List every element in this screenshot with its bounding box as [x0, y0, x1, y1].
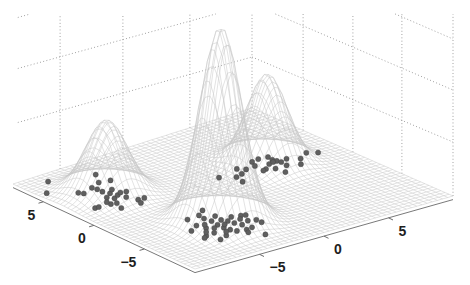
data-point [213, 214, 218, 219]
data-point [304, 150, 309, 155]
data-point [194, 223, 199, 228]
data-point [46, 179, 51, 184]
data-point [249, 225, 254, 230]
data-point [202, 222, 207, 227]
data-point [219, 217, 224, 222]
data-point [234, 228, 239, 233]
data-point [119, 205, 124, 210]
data-point [138, 200, 143, 205]
data-point [298, 156, 303, 161]
data-point [259, 220, 264, 225]
data-point [100, 189, 105, 194]
data-point [95, 187, 100, 192]
data-point [204, 229, 209, 234]
data-point [96, 204, 101, 209]
data-point [240, 222, 245, 227]
data-point [265, 154, 270, 159]
data-point [114, 201, 119, 206]
x-tick-label: 0 [334, 241, 342, 257]
data-point [118, 190, 123, 195]
data-point [261, 168, 266, 173]
data-point [238, 216, 243, 221]
data-point [44, 191, 49, 196]
data-point [104, 200, 109, 205]
data-point [89, 185, 94, 190]
data-point [124, 189, 129, 194]
data-point [284, 156, 289, 161]
data-point [200, 208, 205, 213]
data-point [108, 178, 113, 183]
data-point [243, 212, 248, 217]
data-point [222, 222, 227, 227]
data-point [271, 159, 276, 164]
y-tick-label: −5 [120, 254, 136, 270]
data-point [224, 229, 229, 234]
data-point [298, 162, 303, 167]
data-point [142, 195, 147, 200]
data-point [189, 228, 194, 233]
data-point [218, 237, 223, 242]
data-point [229, 214, 234, 219]
data-point [96, 180, 101, 185]
data-point [273, 166, 278, 171]
data-point [202, 235, 207, 240]
figure: −5 0 5 −5 0 5 [0, 0, 470, 285]
data-point [316, 150, 321, 155]
data-point [252, 163, 257, 168]
data-point [196, 213, 201, 218]
data-point [209, 219, 214, 224]
data-point [185, 217, 190, 222]
y-tick-label: 0 [78, 230, 86, 246]
data-point [245, 218, 250, 223]
data-point [239, 171, 244, 176]
data-point [240, 179, 245, 184]
data-point [109, 187, 114, 192]
data-point [263, 232, 268, 237]
y-tick-label: 5 [28, 207, 36, 223]
data-point [279, 159, 284, 164]
data-point [124, 195, 129, 200]
data-point [234, 166, 239, 171]
data-point [234, 175, 239, 180]
data-point [244, 167, 249, 172]
data-point [283, 170, 288, 175]
data-point [246, 230, 251, 235]
data-point [284, 163, 289, 168]
data-point [256, 157, 261, 162]
data-point [232, 220, 237, 225]
data-point [216, 175, 221, 180]
data-point [81, 191, 86, 196]
x-tick-label: 5 [399, 223, 407, 239]
x-tick-label: −5 [270, 259, 286, 275]
data-point [93, 172, 98, 177]
3d-mesh-scatter-plot: −5 0 5 −5 0 5 [0, 0, 470, 285]
data-point [212, 230, 217, 235]
data-point [254, 217, 259, 222]
data-point [212, 226, 217, 231]
data-point [201, 216, 206, 221]
data-point [76, 190, 81, 195]
